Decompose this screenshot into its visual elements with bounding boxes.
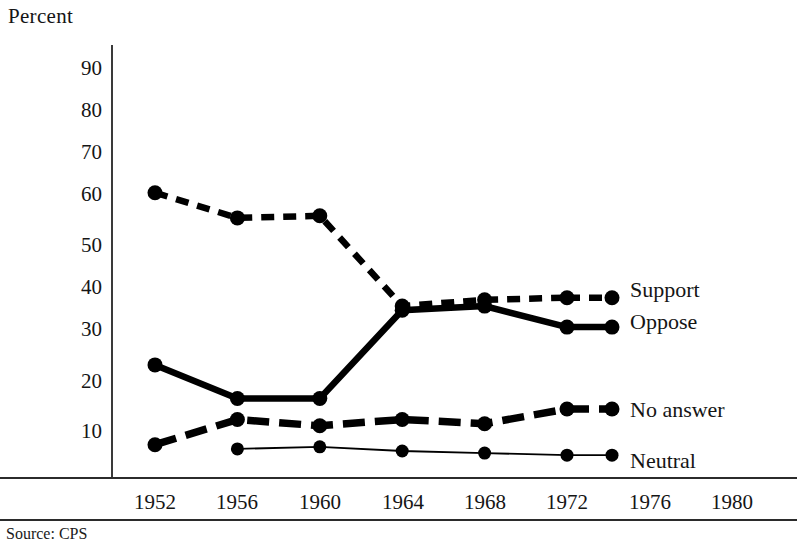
data-point-marker: [312, 418, 327, 433]
data-point-marker: [560, 320, 575, 335]
data-point-marker: [561, 449, 574, 462]
data-point-marker: [605, 402, 620, 417]
data-point-marker: [478, 447, 491, 460]
data-point-marker: [231, 442, 244, 455]
data-point-marker: [148, 437, 163, 452]
series-neutral: [231, 440, 619, 461]
series-line: [155, 193, 567, 306]
data-point-marker: [312, 391, 327, 406]
series-line: [155, 409, 567, 445]
series-support: [148, 185, 620, 313]
series-oppose: [148, 299, 620, 406]
data-point-marker: [230, 391, 245, 406]
data-point-marker: [477, 299, 492, 314]
data-point-marker: [477, 416, 492, 431]
data-point-marker: [605, 320, 620, 335]
series-no-answer: [148, 402, 620, 453]
data-point-marker: [560, 402, 575, 417]
data-point-marker: [230, 210, 245, 225]
data-point-marker: [396, 445, 409, 458]
data-point-marker: [395, 303, 410, 318]
plot-series-group: [148, 185, 620, 462]
data-point-marker: [230, 412, 245, 427]
data-point-marker: [148, 357, 163, 372]
series-line: [155, 306, 567, 398]
data-point-marker: [605, 290, 620, 305]
data-point-marker: [313, 440, 326, 453]
data-point-marker: [148, 185, 163, 200]
data-point-marker: [312, 208, 327, 223]
data-point-marker: [560, 290, 575, 305]
data-point-marker: [395, 412, 410, 427]
data-point-marker: [606, 449, 619, 462]
